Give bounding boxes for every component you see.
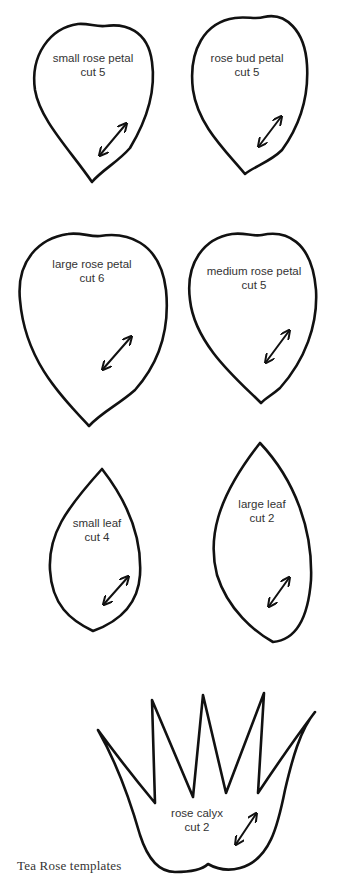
small-rose-petal-label: small rose petal [53,52,134,64]
small-leaf-label: small leaf [73,517,122,529]
rose-calyx-label: rose calyx [171,807,223,819]
template-large-rose-petal: large rose petal cut 6 [20,234,167,426]
figure-caption: Tea Rose templates [17,858,122,874]
small-leaf-outline [50,469,140,631]
medium-rose-petal-cut: cut 5 [242,279,267,291]
large-rose-petal-cut: cut 6 [80,272,105,284]
small-rose-petal-cut: cut 5 [81,66,106,78]
template-small-leaf: small leaf cut 4 [50,469,140,631]
large-leaf-outline [214,443,312,642]
rose-bud-petal-outline [192,16,307,174]
rose-calyx-cut: cut 2 [185,821,210,833]
template-large-leaf: large leaf cut 2 [214,443,312,642]
template-medium-rose-petal: medium rose petal cut 5 [189,234,316,403]
rose-bud-petal-cut: cut 5 [235,66,260,78]
rose-calyx-outline [98,693,315,872]
small-leaf-cut: cut 4 [85,531,111,543]
medium-rose-petal-outline [189,234,316,403]
template-rose-bud-petal: rose bud petal cut 5 [192,16,307,174]
template-small-rose-petal: small rose petal cut 5 [34,24,153,182]
small-rose-petal-outline [34,24,153,182]
large-rose-petal-label: large rose petal [52,258,131,270]
medium-rose-petal-label: medium rose petal [207,265,302,277]
large-leaf-label: large leaf [238,498,286,510]
large-leaf-cut: cut 2 [250,512,275,524]
rose-bud-petal-label: rose bud petal [211,52,284,64]
template-rose-calyx: rose calyx cut 2 [98,693,315,872]
